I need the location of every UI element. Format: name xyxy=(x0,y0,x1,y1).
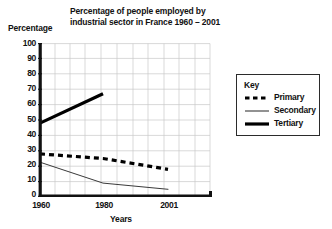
chart-title-line-1: Percentage of people employed by xyxy=(70,6,230,17)
plot-area xyxy=(38,43,212,197)
x-axis-title: Years xyxy=(110,214,132,224)
legend-item-primary: Primary xyxy=(244,92,318,104)
y-tick-30: 30 xyxy=(27,144,36,154)
y-tick-20: 20 xyxy=(27,159,36,169)
y-tick-60: 60 xyxy=(27,98,36,108)
y-axis-title: Percentage xyxy=(8,23,52,33)
y-tick-50: 50 xyxy=(27,114,36,124)
legend-box: Key Primary Secondary Tertiary xyxy=(236,74,320,136)
legend-title: Key xyxy=(244,80,259,90)
y-tick-10: 10 xyxy=(27,174,36,184)
legend-swatch-tertiary-solid-thick xyxy=(244,118,270,130)
legend-item-tertiary: Tertiary xyxy=(244,118,318,130)
plot-canvas xyxy=(38,43,212,197)
legend-label-primary: Primary xyxy=(274,92,304,102)
x-tick-2001: 2001 xyxy=(160,200,178,210)
legend-swatch-secondary-solid-thin xyxy=(244,105,270,117)
y-tick-100: 100 xyxy=(23,38,36,48)
chart-title: Percentage of people employed by industr… xyxy=(70,6,230,28)
legend-item-secondary: Secondary xyxy=(244,105,318,117)
y-tick-80: 80 xyxy=(27,68,36,78)
legend-swatch-primary-dashed xyxy=(244,92,270,104)
y-tick-70: 70 xyxy=(27,83,36,93)
y-tick-0: 0 xyxy=(32,189,36,199)
x-tick-1980: 1980 xyxy=(95,200,113,210)
chart-figure: Percentage of people employed by industr… xyxy=(0,0,332,229)
y-tick-90: 90 xyxy=(27,53,36,63)
x-tick-1960: 1960 xyxy=(32,200,50,210)
legend-label-tertiary: Tertiary xyxy=(274,118,303,128)
legend-label-secondary: Secondary xyxy=(274,105,316,115)
y-tick-40: 40 xyxy=(27,129,36,139)
series-line-tertiary xyxy=(40,94,103,123)
series-line-primary xyxy=(40,154,168,169)
y-axis-tick-labels: 100 90 80 70 60 50 40 30 20 10 0 xyxy=(12,38,36,198)
chart-title-line-2: industrial sector in France 1960 – 2001 xyxy=(70,17,230,28)
x-axis-tick-labels: 1960 1980 2001 xyxy=(0,200,232,214)
